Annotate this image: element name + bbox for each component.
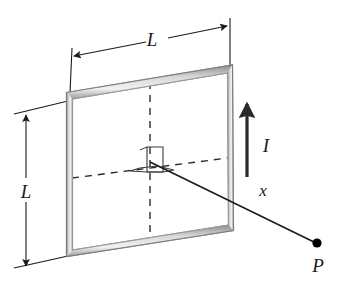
distance-label: x (258, 181, 267, 200)
loop-top-wire (67, 65, 233, 99)
filled-dot-icon (312, 238, 321, 247)
height-dim-extension-top (14, 101, 68, 114)
height-dimension-label: L (20, 181, 32, 202)
physics-figure: L L (0, 0, 342, 282)
width-dim-extension-left (70, 48, 72, 93)
width-dim-arrow-left (74, 42, 146, 56)
width-dimension-label: L (146, 29, 158, 50)
current-arrow-group: I (247, 104, 271, 177)
point-p-label: P (311, 255, 324, 276)
loop-left-wire (67, 93, 73, 257)
distance-axis-group: x P (150, 162, 324, 276)
diagram-canvas: L L (0, 0, 342, 282)
height-dim-extension-bottom (14, 256, 68, 268)
current-label: I (262, 135, 271, 156)
right-angle-depth-edge (140, 147, 147, 150)
height-dimension-group: L (14, 101, 68, 268)
width-dim-arrow-right (168, 26, 227, 38)
